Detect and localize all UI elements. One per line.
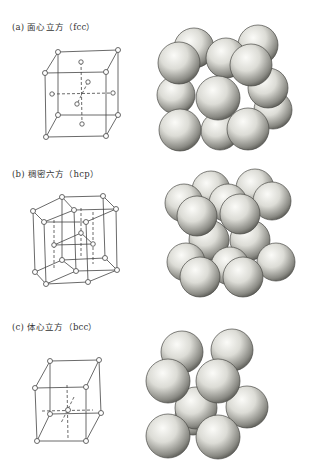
hcp-lattice-diagram	[0, 160, 150, 310]
hcp-sphere-packing	[150, 165, 312, 310]
fcc-sphere-packing	[150, 20, 312, 160]
bcc-lattice-diagram	[0, 320, 150, 470]
fcc-lattice-diagram	[0, 30, 140, 160]
bcc-sphere-packing	[140, 320, 312, 470]
